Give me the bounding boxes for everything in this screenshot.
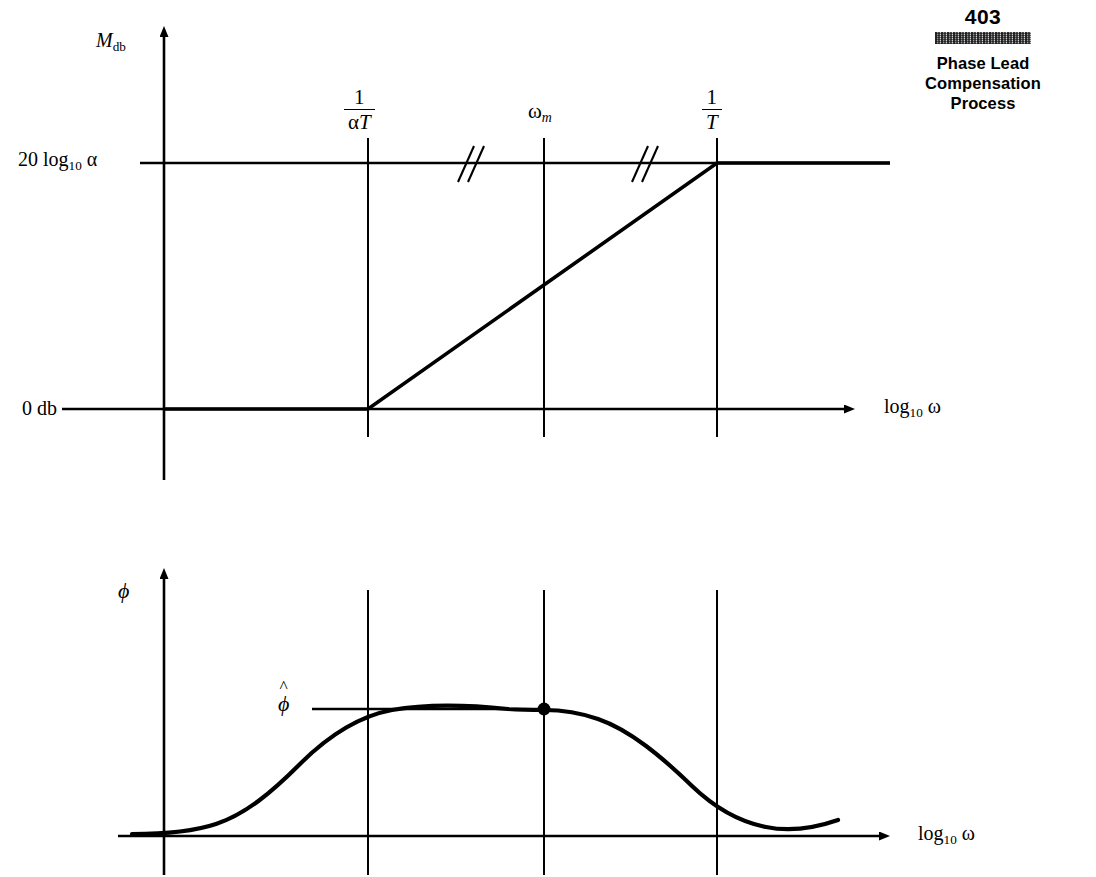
magnitude-x-axis-label: log10ω xyxy=(884,396,941,419)
figure-root: 403 Phase Lead Compensation Process xyxy=(0,0,1096,877)
omega-subscript-m: m xyxy=(542,110,552,125)
magnitude-ytick-20log-alpha-symbol: α xyxy=(87,148,97,170)
magnitude-y-axis-label-base: M xyxy=(96,29,113,51)
omega-symbol: ω xyxy=(528,99,542,123)
fraction-denominator: T xyxy=(702,109,722,133)
magnitude-ytick-zero-db: 0 db xyxy=(22,398,57,418)
fraction-numerator: 1 xyxy=(702,86,722,109)
xtick-label-omega-m: ωm xyxy=(528,101,552,125)
fraction-denominator: αT xyxy=(344,109,375,133)
magnitude-x-axis-label-sub: 10 xyxy=(910,405,923,420)
magnitude-ytick-20log-base: 20 log xyxy=(18,148,69,170)
phase-x-axis-label-var: ω xyxy=(962,822,975,844)
bode-plot-svg xyxy=(0,0,1096,877)
xtick-label-one-over-alpha-T: 1 αT xyxy=(344,86,375,133)
T-symbol: T xyxy=(359,110,371,134)
magnitude-y-axis-label: Mdb xyxy=(96,30,126,53)
xtick-label-one-over-T: 1 T xyxy=(702,86,722,133)
phase-x-axis-label: log10ω xyxy=(918,823,975,846)
fraction-one-over-T: 1 T xyxy=(702,86,722,133)
peak-phase-marker xyxy=(538,703,551,716)
magnitude-x-axis-label-var: ω xyxy=(928,395,941,417)
fraction-one-over-alpha-T: 1 αT xyxy=(344,86,375,133)
phi-symbol: ϕ xyxy=(118,578,129,603)
magnitude-ytick-20log-alpha: 20 log10α xyxy=(18,149,97,172)
magnitude-y-axis-label-sub: db xyxy=(113,39,126,54)
phi-symbol: ϕ xyxy=(278,693,289,715)
phase-curve xyxy=(132,705,838,834)
magnitude-asymptote-curve xyxy=(164,163,890,409)
vertical-gridlines xyxy=(368,138,717,875)
fraction-numerator: 1 xyxy=(344,86,375,109)
phase-y-axis-label: ϕ xyxy=(118,580,129,602)
magnitude-ytick-20log-sub: 10 xyxy=(69,158,82,173)
phase-ytick-phi-hat: ^ ϕ xyxy=(278,682,289,715)
alpha-symbol: α xyxy=(348,110,359,134)
magnitude-panel xyxy=(62,36,890,480)
phase-x-axis-label-sub: 10 xyxy=(944,832,957,847)
phi-hat-group: ^ ϕ xyxy=(278,682,289,715)
phase-panel xyxy=(118,578,880,875)
phase-x-axis-label-base: log xyxy=(918,822,944,844)
magnitude-x-axis-label-base: log xyxy=(884,395,910,417)
